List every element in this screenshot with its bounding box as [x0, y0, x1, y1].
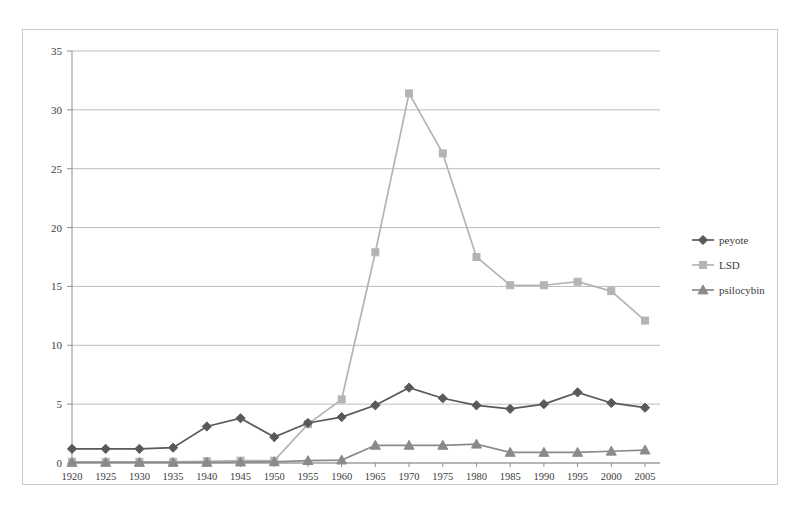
x-axis-tick-label: 1965	[365, 471, 386, 482]
x-axis-tick-label: 1925	[95, 471, 116, 482]
x-axis-tick-label: 1975	[432, 471, 453, 482]
y-axis-tick-label: 5	[57, 398, 63, 410]
data-point-peyote-1975	[438, 394, 447, 403]
data-point-lsd-2005	[642, 317, 649, 324]
legend-label-lsd: LSD	[719, 259, 740, 271]
legend-item-lsd[interactable]: LSD	[692, 259, 740, 271]
x-axis-tick-label: 2005	[635, 471, 656, 482]
y-axis-tick-label: 25	[51, 163, 63, 175]
x-axis-tick-label: 1995	[567, 471, 588, 482]
data-point-lsd-1965	[372, 249, 379, 256]
x-axis-tick-label: 1940	[196, 471, 217, 482]
series-lsd	[69, 90, 649, 465]
y-axis: 05101520253035	[51, 45, 72, 469]
data-point-lsd-2000	[608, 288, 615, 295]
data-point-lsd-1995	[574, 278, 581, 285]
x-axis-tick-label: 1955	[297, 471, 318, 482]
data-point-peyote-1935	[169, 443, 178, 452]
data-point-peyote-1930	[135, 444, 144, 453]
legend-item-peyote[interactable]: peyote	[692, 234, 748, 246]
y-axis-tick-label: 35	[51, 45, 63, 57]
x-axis-tick-label: 1945	[230, 471, 251, 482]
data-point-peyote-1945	[236, 414, 245, 423]
x-axis: 1920192519301935194019451950195519601965…	[62, 463, 661, 482]
data-point-lsd-1990	[540, 282, 547, 289]
x-axis-tick-label: 1990	[533, 471, 554, 482]
line-chart: 05101520253035 1920192519301935194019451…	[0, 0, 805, 519]
data-point-lsd-1970	[406, 90, 413, 97]
y-axis-tick-label: 10	[51, 339, 63, 351]
x-axis-tick-label: 1935	[163, 471, 184, 482]
legend-marker-lsd	[700, 262, 707, 269]
y-axis-tick-label: 30	[51, 104, 63, 116]
x-axis-tick-label: 1970	[399, 471, 420, 482]
x-axis-tick-label: 1920	[62, 471, 83, 482]
gridlines	[72, 51, 660, 463]
data-point-peyote-1990	[539, 400, 548, 409]
series-peyote	[67, 383, 649, 453]
data-point-peyote-1925	[101, 444, 110, 453]
series-line-psilocybin	[72, 444, 645, 462]
chart-legend: peyoteLSDpsilocybin	[692, 234, 765, 296]
data-point-lsd-1960	[338, 396, 345, 403]
x-axis-tick-label: 1985	[500, 471, 521, 482]
y-axis-tick-label: 20	[51, 222, 63, 234]
legend-label-peyote: peyote	[719, 234, 748, 246]
legend-item-psilocybin[interactable]: psilocybin	[692, 284, 765, 296]
data-point-peyote-1920	[67, 444, 76, 453]
data-point-peyote-1965	[371, 401, 380, 410]
data-point-peyote-1970	[404, 383, 413, 392]
x-axis-tick-label: 1960	[331, 471, 352, 482]
series-line-peyote	[72, 388, 645, 449]
data-point-lsd-1985	[507, 282, 514, 289]
series-line-lsd	[72, 93, 645, 461]
data-point-peyote-2000	[607, 398, 616, 407]
legend-marker-peyote	[698, 235, 707, 244]
x-axis-tick-label: 2000	[601, 471, 622, 482]
data-point-peyote-1980	[472, 401, 481, 410]
data-point-lsd-1980	[473, 254, 480, 261]
x-axis-tick-label: 1980	[466, 471, 487, 482]
y-axis-tick-label: 15	[51, 280, 63, 292]
data-point-peyote-1940	[202, 422, 211, 431]
data-point-peyote-1960	[337, 412, 346, 421]
chart-canvas: 05101520253035 1920192519301935194019451…	[0, 0, 805, 519]
series-psilocybin	[67, 439, 650, 466]
legend-label-psilocybin: psilocybin	[719, 284, 765, 296]
data-point-peyote-1950	[270, 433, 279, 442]
data-point-peyote-1985	[506, 404, 515, 413]
data-point-peyote-1995	[573, 388, 582, 397]
data-point-lsd-1975	[439, 150, 446, 157]
x-axis-tick-label: 1950	[264, 471, 285, 482]
x-axis-tick-label: 1930	[129, 471, 150, 482]
y-axis-tick-label: 0	[57, 457, 63, 469]
series-layer	[67, 90, 650, 466]
